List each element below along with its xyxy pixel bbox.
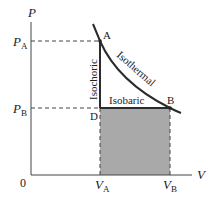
isobaric-label: Isobaric [109, 94, 145, 106]
point-d-label: D [90, 110, 98, 122]
pb-label: PB [12, 101, 27, 118]
va-label: VA [95, 177, 110, 194]
shaded-work-area [100, 108, 170, 175]
p-axis-label: P [27, 5, 36, 20]
pa-label: PA [12, 34, 28, 51]
pv-diagram: P V 0 PA PB VA VB A B D Isochoric Isothe… [0, 0, 217, 200]
point-b-dot [168, 106, 172, 110]
isochoric-label: Isochoric [87, 59, 99, 100]
point-a-label: A [103, 29, 111, 41]
isothermal-label: Isothermal [115, 48, 158, 88]
point-a-dot [98, 39, 102, 43]
v-axis-label: V [197, 167, 207, 182]
origin-label: 0 [20, 176, 26, 190]
vb-label: VB [163, 177, 177, 194]
point-b-label: B [167, 94, 174, 106]
